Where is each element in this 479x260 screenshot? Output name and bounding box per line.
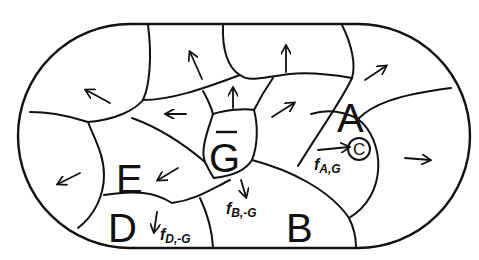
flux-label-a-g: fA,G	[314, 156, 341, 176]
velocity-arrows	[58, 46, 430, 232]
region-label-d: D	[108, 206, 137, 250]
arrow-right-icon	[405, 158, 430, 160]
flux-subscript: A,G	[318, 162, 340, 176]
cell-partition-diagram: E G D B A C fA,G fB,-G fD,-G	[0, 0, 479, 260]
circled-c-label: C	[353, 140, 365, 159]
region-label-a: A	[337, 96, 364, 140]
region-label-b: B	[286, 206, 313, 250]
arrow-down-icon	[241, 180, 246, 197]
arrow-down-icon	[154, 212, 157, 232]
arrow-up-right-icon	[272, 103, 294, 117]
arrow-down-left-icon	[58, 173, 80, 184]
region-label-e: E	[116, 157, 143, 201]
flux-label-b-g: fB,-G	[226, 200, 257, 220]
arrow-up-right-icon	[365, 66, 386, 80]
arrow-up-left-icon	[190, 52, 202, 79]
arrow-up-left-icon	[86, 90, 110, 103]
flux-subscript: D,-G	[165, 232, 190, 246]
region-label-g: G	[209, 136, 240, 180]
flux-vector-arrow-icon	[318, 147, 349, 150]
flux-subscript: B,-G	[231, 206, 256, 220]
arrow-down-left-icon	[158, 168, 178, 180]
flux-label-d-g: fD,-G	[160, 226, 191, 246]
